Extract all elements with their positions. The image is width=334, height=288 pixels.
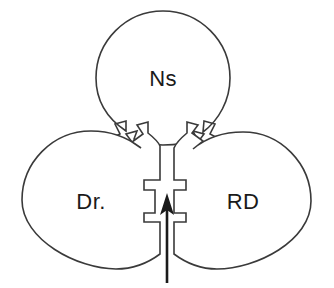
puzzle-piece-dr[interactable]: Dr. — [22, 122, 160, 269]
piece-rd-label: RD — [227, 189, 260, 214]
jigsaw-venn-diagram: Ns Dr. RD — [0, 0, 334, 288]
diagram-canvas: Ns Dr. RD — [0, 0, 334, 288]
puzzle-piece-rd[interactable]: RD — [174, 122, 311, 269]
puzzle-piece-ns[interactable]: Ns — [96, 11, 230, 150]
piece-ns-label: Ns — [149, 66, 177, 91]
piece-dr-label: Dr. — [76, 189, 105, 214]
center-pointer-arrow[interactable] — [160, 193, 174, 283]
